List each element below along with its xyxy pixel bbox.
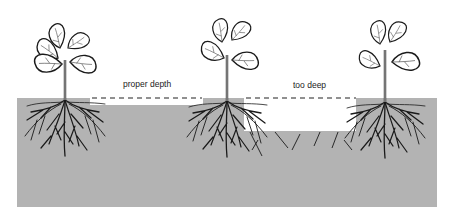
planting-depth-diagram: proper depth too deep [0, 0, 454, 218]
too-deep-label: too deep [293, 80, 326, 90]
proper-depth-label: proper depth [123, 79, 171, 89]
